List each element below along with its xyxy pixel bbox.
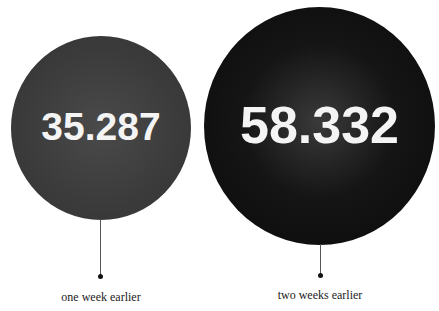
leader-dot bbox=[98, 274, 103, 279]
bubble-label: one week earlier bbox=[61, 290, 140, 305]
bubble-two-weeks-earlier: 58.332 bbox=[204, 7, 435, 245]
bubble-label: two weeks earlier bbox=[278, 288, 363, 303]
leader-line bbox=[100, 219, 101, 275]
bubble-value: 35.287 bbox=[41, 105, 160, 149]
leader-dot bbox=[318, 273, 323, 278]
bubble-one-week-earlier: 35.287 bbox=[11, 36, 191, 220]
leader-line bbox=[320, 244, 321, 274]
bubble-value: 58.332 bbox=[240, 95, 399, 155]
